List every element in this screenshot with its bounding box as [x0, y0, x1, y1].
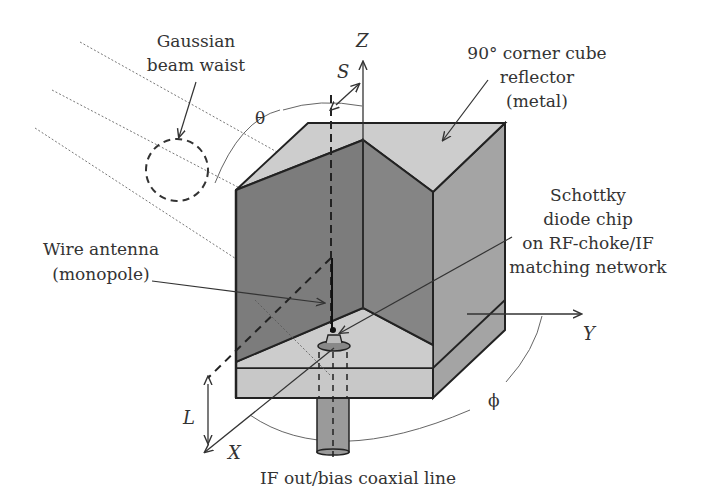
theta-symbol: θ: [255, 108, 265, 128]
phi-arc-right: [506, 316, 542, 382]
svg-text:Schottky: Schottky: [550, 185, 626, 205]
reflector-label: 90° corner cube reflector (metal): [467, 43, 606, 111]
svg-text:Gaussian: Gaussian: [157, 31, 236, 51]
s-symbol: S: [337, 61, 349, 82]
s-arrow: [336, 84, 359, 105]
svg-text:on RF-choke/IF: on RF-choke/IF: [522, 233, 654, 253]
l-symbol: L: [182, 407, 195, 428]
x-axis-label: X: [226, 442, 242, 463]
gaussian-label: Gaussian beam waist: [147, 31, 245, 75]
y-axis-label: Y: [583, 323, 597, 344]
base-strip: [236, 368, 433, 398]
theta-arc-top: [283, 103, 362, 110]
svg-text:diode chip: diode chip: [543, 209, 633, 229]
schottky-label: Schottky diode chip on RF-choke/IF match…: [509, 185, 667, 277]
beam-waist-circle: [146, 139, 208, 201]
svg-text:(metal): (metal): [506, 91, 568, 111]
coaxial-line: [317, 398, 349, 455]
svg-text:90° corner cube: 90° corner cube: [467, 43, 606, 63]
svg-text:reflector: reflector: [500, 67, 575, 87]
gaussian-leader: [179, 82, 196, 137]
svg-text:beam waist: beam waist: [147, 55, 245, 75]
diagram-canvas: Gaussian beam waist 90° corner cube refl…: [0, 0, 705, 500]
corner-cube-diagram: Gaussian beam waist 90° corner cube refl…: [0, 0, 705, 500]
coax-label: IF out/bias coaxial line: [260, 468, 456, 488]
phi-symbol: ϕ: [488, 390, 500, 410]
wire-antenna-label: Wire antenna (monopole): [43, 239, 159, 284]
svg-text:(monopole): (monopole): [52, 264, 149, 284]
phi-arc: [250, 410, 470, 441]
z-axis-label: Z: [355, 30, 369, 51]
svg-text:matching network: matching network: [509, 257, 667, 277]
svg-text:Wire antenna: Wire antenna: [43, 239, 159, 259]
